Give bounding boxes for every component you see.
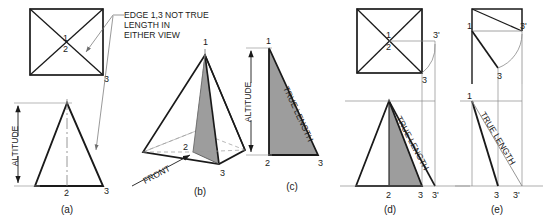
label-2-top: 2	[63, 44, 68, 54]
label-3-pictorial: 3	[220, 168, 225, 178]
annotation-line-1: EDGE 1,3 NOT TRUE	[124, 10, 209, 20]
annotation-line-2: LENGTH IN	[124, 20, 170, 30]
label-1-pictorial: 1	[203, 37, 208, 47]
label-1-e-top: 1	[467, 21, 472, 31]
technical-drawing-figure: 1 2 3 2 3 ALTITUDE (a) EDGE 1,3 NOT TRUE…	[0, 0, 543, 221]
label-3-d-front: 3	[418, 190, 423, 200]
panel-e-caption: (e)	[491, 204, 503, 215]
panel-b-caption: (b)	[194, 186, 206, 197]
altitude-label: ALTITUDE	[10, 125, 20, 166]
figure-svg: 1 2 3 2 3 ALTITUDE (a) EDGE 1,3 NOT TRUE…	[0, 0, 543, 221]
label-3-front: 3	[104, 186, 109, 196]
label-3prime-d-top: 3'	[433, 30, 440, 40]
annotation-line-3: EITHER VIEW	[124, 30, 181, 40]
panel-a-caption: (a)	[61, 204, 73, 215]
label-2-d-top: 2	[386, 42, 391, 52]
label-3prime-d-front: 3'	[432, 190, 439, 200]
label-2-front: 2	[64, 188, 69, 198]
panel-c-caption: (c)	[286, 181, 298, 192]
altitude-label-c: ALTITUDE	[243, 81, 253, 122]
label-1-e-front: 1	[467, 91, 472, 101]
label-1-c: 1	[266, 36, 271, 46]
label-3-d-top: 3	[422, 75, 427, 85]
panel-d-caption: (d)	[384, 204, 396, 215]
label-3-c: 3	[318, 158, 323, 168]
label-3prime-e-front: 3'	[513, 190, 520, 200]
label-2-c: 2	[265, 158, 270, 168]
label-2-d-front: 2	[386, 190, 391, 200]
label-3-e-top: 3	[497, 71, 502, 81]
label-3prime-e-top: 3'	[520, 21, 527, 31]
label-1-top: 1	[63, 33, 68, 43]
label-3-e-front: 3	[494, 190, 499, 200]
label-2-pictorial: 2	[183, 142, 188, 152]
label-1-d-top: 1	[386, 30, 391, 40]
